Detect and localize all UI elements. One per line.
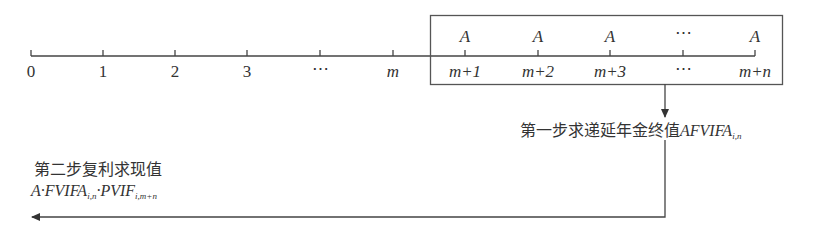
payment-label: A xyxy=(533,28,543,45)
period-label: m+2 xyxy=(522,63,554,80)
period-label: 2 xyxy=(171,63,180,80)
step2-formula-part: A·FVIFA xyxy=(31,182,87,199)
period-label: 0 xyxy=(27,63,36,80)
payment-label: ⋯ xyxy=(675,24,692,41)
period-label: 3 xyxy=(243,63,252,80)
step1-text: 第一步求递延年金终值 xyxy=(520,121,680,140)
period-label: m+3 xyxy=(594,63,626,80)
period-label: 1 xyxy=(99,63,108,80)
step2-formula-part: ·PVIF xyxy=(96,182,135,199)
payment-label: A xyxy=(460,28,470,45)
period-label: m+1 xyxy=(449,63,481,80)
payment-label: A xyxy=(605,28,615,45)
step1-formula-subscript: i,n xyxy=(732,131,741,141)
period-label: m+n xyxy=(739,63,771,80)
step1-formula: AFVIFAi,n xyxy=(680,122,741,139)
period-label: ⋯ xyxy=(312,60,329,77)
step1-formula-main: AFVIFA xyxy=(680,122,732,139)
payment-label: A xyxy=(750,28,760,45)
period-label: ⋯ xyxy=(675,60,692,77)
timeline-ticks xyxy=(31,50,755,56)
step2-formula-subscript: i,m+n xyxy=(135,191,157,201)
step2-formula: A·FVIFAi,n·PVIFi,m+n xyxy=(31,183,157,201)
step2-text: 第二步复利求现值 xyxy=(34,162,162,178)
step1-label: 第一步求递延年金终值AFVIFAi,n xyxy=(520,121,741,141)
period-label: m xyxy=(387,63,399,80)
